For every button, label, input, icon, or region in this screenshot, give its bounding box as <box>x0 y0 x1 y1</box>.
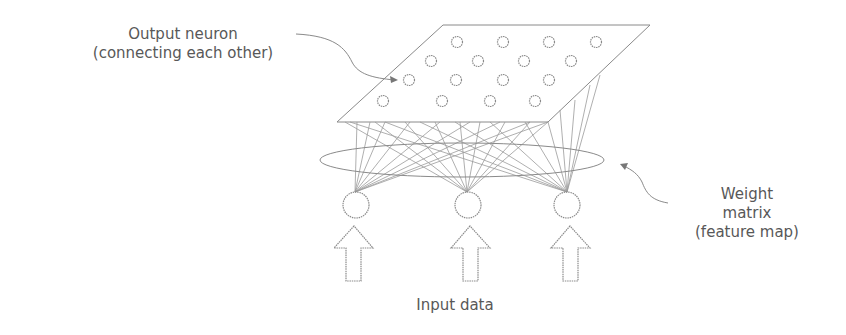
input-neuron-1 <box>343 192 369 218</box>
output-layer-plane <box>337 25 650 122</box>
output-neuron <box>451 75 462 86</box>
input-neurons <box>343 192 580 218</box>
output-neuron <box>426 56 437 67</box>
output-neuron <box>544 75 555 86</box>
up-arrow-icon <box>334 226 373 281</box>
output-neuron <box>404 75 415 86</box>
output-neuron <box>498 75 509 86</box>
network-diagram <box>0 0 846 335</box>
up-arrow-icon <box>451 226 490 281</box>
up-arrow-icon <box>551 226 590 281</box>
arrowhead-icon <box>620 163 628 170</box>
output-neuron-pointer-arrow <box>296 34 395 80</box>
output-neuron <box>498 37 509 48</box>
output-neuron <box>566 56 577 67</box>
output-neuron <box>452 37 463 48</box>
output-neuron <box>473 56 484 67</box>
output-neuron <box>437 96 448 107</box>
arrowhead-icon <box>390 76 398 83</box>
weight-matrix-ellipse <box>320 143 604 177</box>
output-neuron <box>591 37 602 48</box>
output-neuron <box>485 96 496 107</box>
input-arrows <box>334 226 590 281</box>
output-neuron <box>519 56 530 67</box>
output-neuron <box>544 37 555 48</box>
output-neuron <box>530 96 541 107</box>
output-neuron <box>378 96 389 107</box>
output-neurons <box>378 37 602 107</box>
input-neuron-2 <box>455 192 481 218</box>
weight-matrix-pointer-arrow <box>624 166 668 203</box>
input-neuron-3 <box>554 192 580 218</box>
